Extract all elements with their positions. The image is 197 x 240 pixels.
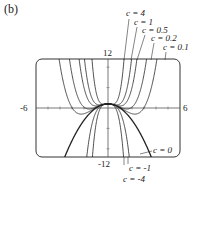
x-max-label: 6 xyxy=(183,104,188,113)
y-max-label: 12 xyxy=(103,49,112,58)
label-c-neg-4: c = -4 xyxy=(123,175,145,184)
y-min-label: -12 xyxy=(98,160,110,169)
label-c-0: c = 0 xyxy=(153,146,172,155)
label-c-0-1: c = 0.1 xyxy=(163,43,189,52)
x-min-label: -6 xyxy=(20,104,28,113)
label-c-neg-1: c = -1 xyxy=(129,164,151,173)
